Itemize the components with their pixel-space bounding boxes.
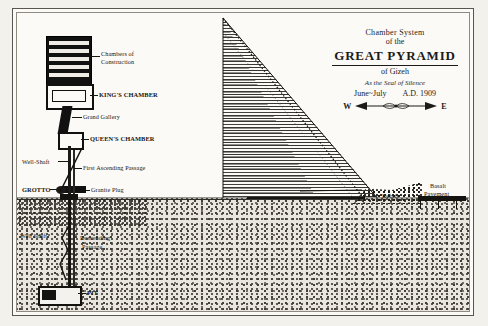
leader-grand-gallery [72,117,82,118]
label-first-ascending-passage: First Ascending Passage [83,164,145,171]
pit-structure [38,286,82,306]
leader-chambers-of-construction [90,56,100,57]
label-basalt-pavement: Basalt [430,182,446,189]
leader-first-ascending-passage [74,168,82,169]
label-descending-passage-2: Passage [82,243,102,250]
pavement-tick [456,200,457,209]
pyramid-diagram-plate: Chamber System of the GREAT PYRAMID of G… [0,0,488,326]
ground-line-left [17,199,247,200]
label-well-shaft-upper: Well-Shaft [22,158,50,165]
label-well-shaft-lower: Well Shaft [20,232,47,239]
label-queens-chamber: QUEEN'S CHAMBER [90,135,155,142]
rubble-layer [18,199,146,227]
leader-pit [78,293,86,294]
kings-chamber-void [52,90,86,102]
pavement-tick [438,200,439,209]
ground-line-right [247,199,361,200]
label-granite-plug: Granite Plug [91,186,124,193]
label-grand-gallery: Grand Gallery [83,113,120,120]
leader-grotto [50,189,58,190]
pavement-tick [420,200,421,209]
label-debris: Debris [382,192,399,199]
label-basalt-pavement-2: Pavement [424,190,449,197]
pyramid-base-line [247,197,365,199]
title-script-line: As the Seal of Silence [330,79,460,87]
title-line-2: of the [330,37,460,46]
label-kings-chamber: KING'S CHAMBER [99,91,158,98]
title-date-left: June~July [354,89,386,98]
label-chambers-of-construction: Chambers of [101,50,134,57]
leader-granite-plug [84,190,90,191]
leader-well-shaft-upper [58,161,70,162]
leader-queens-chamber [81,139,89,140]
compass-west-label: W [343,102,351,111]
label-chambers-of-construction-2: Construction [101,58,134,65]
title-sub: of Gizeh [330,67,460,76]
leader-kings-chamber [90,95,98,96]
compass-ornament-icon [353,100,439,112]
compass-rose: W E [330,100,460,112]
compass-east-label: E [441,102,446,111]
title-block: Chamber System of the GREAT PYRAMID of G… [330,28,460,112]
label-descending-passage: Descending [80,234,110,241]
chambers-of-construction-structure [46,36,92,84]
title-date-right: A.D. 1909 [402,89,436,98]
label-pit: PIT [87,289,98,296]
label-grotto: GROTTO [22,186,51,193]
title-line-1: Chamber System [330,28,460,37]
title-main: GREAT PYRAMID [332,48,458,66]
